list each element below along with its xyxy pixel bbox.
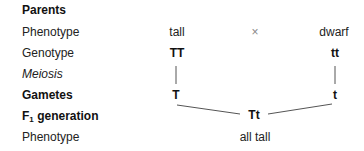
parent2-genotype: tt bbox=[331, 46, 339, 60]
f1-phenotype-label: Phenotype bbox=[22, 130, 79, 144]
parent2-phenotype: dwarf bbox=[319, 25, 348, 39]
meiosis-label: Meiosis bbox=[22, 67, 63, 81]
parents-heading: Parents bbox=[22, 3, 66, 17]
parent2-gamete: t bbox=[333, 88, 337, 102]
offspring-genotype: Tt bbox=[248, 108, 259, 122]
gametes-label: Gametes bbox=[22, 88, 73, 102]
phenotype-label: Phenotype bbox=[22, 25, 79, 39]
genotype-label: Genotype bbox=[22, 46, 74, 60]
parent1-genotype: TT bbox=[170, 46, 185, 60]
parent1-phenotype: tall bbox=[169, 25, 184, 39]
parent1-gamete: T bbox=[172, 88, 179, 102]
cross-symbol: × bbox=[251, 25, 258, 39]
f1-generation-label: F1 generation bbox=[22, 109, 98, 127]
offspring-phenotype: all tall bbox=[240, 130, 271, 144]
